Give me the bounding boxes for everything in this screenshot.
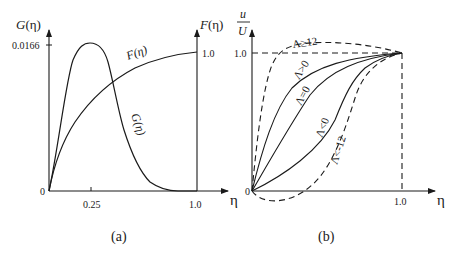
panel-a-x-axis-label: η: [230, 192, 238, 208]
panel-b-caption: (b): [318, 229, 335, 245]
curve-lambda-ge-12: [252, 42, 402, 191]
panel-a-right-axis-label: F(η): [199, 17, 223, 32]
panel-b-y-label-num: u: [240, 7, 246, 21]
panel-b-origin: 0: [245, 186, 250, 197]
panel-a-x-tick-1: 1.0: [189, 199, 202, 210]
panel-b-y-tick: 1.0: [234, 48, 247, 59]
panel-a-caption: (a): [111, 229, 127, 245]
curve-F: [49, 52, 197, 191]
panel-a-y-tick-right: 1.0: [202, 48, 215, 59]
label-lambda-lt-0: Λ<0: [313, 116, 332, 139]
label-lambda-lt-minus-12: Λ<-12: [327, 134, 347, 165]
label-lambda-gt-0: Λ>0: [291, 58, 312, 81]
panel-b-y-label-den: U: [238, 24, 248, 38]
panel-a-x-tick-025: 0.25: [83, 199, 101, 210]
curve-G-label: G(η): [128, 111, 149, 137]
panel-a-y-tick-left: 0.0166: [12, 40, 40, 51]
panel-b: u U 1.0 0 1.0 η Λ≥12 Λ>0 Λ=0 Λ<0 Λ<-12 (…: [234, 7, 445, 245]
figure: G(η) F(η) 0.0166 1.0 0 0.25 1.0 η F(η) G…: [0, 0, 453, 253]
label-lambda-ge-12: Λ≥12: [292, 35, 318, 50]
panel-a: G(η) F(η) 0.0166 1.0 0 0.25 1.0 η F(η) G…: [12, 17, 238, 245]
panel-b-x-axis-label: η: [437, 192, 445, 208]
curve-G: [49, 43, 197, 191]
panel-b-x-tick: 1.0: [394, 196, 407, 207]
panel-a-origin: 0: [40, 186, 45, 197]
curve-F-label: F(η): [123, 42, 149, 63]
panel-a-left-axis-label: G(η): [16, 17, 41, 32]
